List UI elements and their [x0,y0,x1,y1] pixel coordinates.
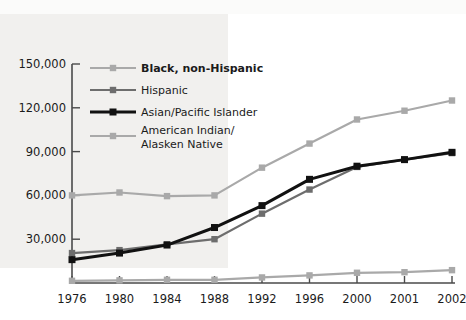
x-axis-label: 1992 [247,292,276,306]
x-axis-label: 1980 [105,292,134,306]
data-series-layer [69,97,456,284]
legend-swatch-marker [110,133,116,139]
series-marker [306,272,312,278]
series-marker [164,242,171,249]
series-marker [259,202,266,209]
series-marker [69,278,75,284]
series-marker [354,116,360,122]
y-axis-tick-labels: 150,000120,00090,00060,00030,000 [18,57,66,246]
series-marker [116,277,122,283]
y-axis-label: 150,000 [18,57,66,71]
series-marker [211,192,217,198]
series-marker [259,210,265,216]
y-axis-label: 90,000 [26,145,66,159]
series-marker [354,270,360,276]
y-axis-label: 30,000 [26,232,66,246]
series-marker [69,250,75,256]
series-marker [401,156,408,163]
y-axis-ticks [72,64,80,239]
series-marker [211,224,218,231]
x-axis-label: 1996 [295,292,324,306]
chart-canvas: 150,000120,00090,00060,00030,000 1976198… [0,0,466,320]
x-axis-label: 2001 [390,292,419,306]
series-marker [116,189,122,195]
series-marker [401,108,407,114]
series-marker [164,193,170,199]
series-marker [306,186,312,192]
series-marker [306,176,313,183]
legend-label: Black, non-Hispanic [141,62,263,75]
legend-swatch-marker [110,109,117,116]
series-marker [306,140,312,146]
x-axis-label: 2002 [437,292,466,306]
series-marker [354,163,361,170]
series-marker [259,274,265,280]
series-marker [69,256,76,263]
series-marker [449,149,456,156]
chart-legend: Black, non-HispanicHispanicAsian/Pacific… [90,62,263,151]
y-axis-label: 120,000 [18,101,66,115]
legend-label: Asian/Pacific Islander [141,106,258,119]
x-axis-label: 2000 [342,292,371,306]
legend-label: Hispanic [141,84,188,97]
line-chart: 150,000120,00090,00060,00030,000 1976198… [0,0,466,320]
series-marker [211,236,217,242]
series-marker [401,269,407,275]
series-marker [449,97,455,103]
series-marker [69,192,75,198]
series-marker [211,277,217,283]
series-marker [449,267,455,273]
x-axis-label: 1988 [200,292,229,306]
series-line [72,101,452,197]
legend-swatch-marker [110,87,116,93]
legend-label: Alasken Native [141,138,223,151]
x-axis-label: 1976 [57,292,86,306]
x-axis-tick-labels: 197619801984198819921996200020012002 [57,292,466,306]
x-axis-label: 1984 [152,292,181,306]
series-marker [164,277,170,283]
legend-label: American Indian/ [141,124,235,137]
series-marker [259,164,265,170]
series-marker [116,250,123,257]
legend-swatch-marker [110,65,116,71]
y-axis-label: 60,000 [26,188,66,202]
